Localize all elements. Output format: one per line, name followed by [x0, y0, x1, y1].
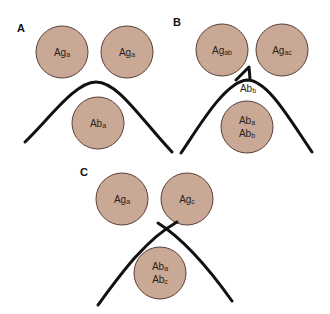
panel-label-c: C — [80, 166, 88, 178]
immunodiffusion-diagram: A Aga Aga Aba B Agab Agac Aba Abb Abb C … — [0, 0, 330, 314]
panel-b: B Agab Agac Aba Abb Abb — [173, 16, 312, 153]
spur-label: Abb — [240, 83, 256, 94]
panel-label-b: B — [173, 16, 181, 28]
well-ab-a-ab-c — [134, 247, 186, 299]
panel-c: C Aga Agc Aba Abc — [80, 166, 232, 305]
panel-a: A Aga Aga Aba — [17, 22, 172, 152]
panel-label-a: A — [17, 22, 25, 34]
well-ab-a-ab-b — [221, 101, 273, 153]
